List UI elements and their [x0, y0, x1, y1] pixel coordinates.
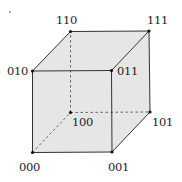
vertex-label-101: 101 [152, 116, 173, 128]
vertex-dot-011 [110, 69, 113, 72]
vertex-label-011: 011 [117, 65, 138, 77]
edge-110-111 [71, 31, 150, 32]
edge-000-001 [33, 152, 113, 153]
edge-010-011 [33, 71, 112, 72]
vertex-dot-010 [31, 69, 34, 72]
vertex-label-000: 000 [19, 161, 40, 173]
vertex-label-111: 111 [147, 14, 168, 26]
vertex-dot-001 [110, 150, 113, 153]
stray-mark [9, 11, 11, 13]
vertex-dot-110 [69, 30, 72, 33]
vertex-label-010: 010 [7, 65, 28, 77]
edge-001-011 [112, 71, 113, 153]
vertex-label-100: 100 [72, 116, 93, 128]
vertex-dot-100 [69, 111, 72, 114]
vertex-dot-101 [148, 110, 151, 113]
vertex-dot-000 [31, 151, 34, 154]
vertex-dot-111 [147, 29, 150, 32]
hypercube-diagram [0, 0, 182, 182]
vertex-label-110: 110 [56, 14, 77, 26]
vertex-label-001: 001 [108, 161, 129, 173]
